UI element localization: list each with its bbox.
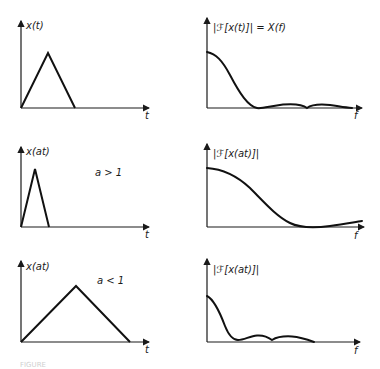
x-axis-label: t — [145, 229, 150, 240]
y-axis-label: x(at) — [25, 261, 50, 272]
y-axis-label: |ℱ[x(t)]| = X(f) — [213, 22, 286, 34]
y-axis-label: x(at) — [25, 146, 50, 157]
spectrum-curve — [207, 168, 362, 227]
condition-label: a < 1 — [97, 275, 124, 286]
x-axis-label: t — [145, 110, 150, 121]
x-axis-label: t — [145, 344, 150, 355]
y-axis-label: |ℱ[x(at)]| — [213, 148, 259, 160]
triangle-pulse — [21, 53, 75, 108]
wide-triangle-pulse — [21, 286, 130, 342]
panel-time-original: x(t) t — [21, 20, 150, 121]
figure-canvas: x(t) t |ℱ[x(t)]| = X(f) f x(at) a > 1 t … — [0, 0, 380, 369]
x-axis-label: f — [354, 230, 359, 241]
x-axis-label: f — [354, 110, 359, 121]
spectrum-curve — [207, 296, 314, 342]
figure-caption: FIGURE — [20, 361, 46, 369]
panel-time-expanded: x(at) a < 1 t — [21, 261, 150, 355]
condition-label: a > 1 — [95, 167, 122, 178]
panel-freq-original: |ℱ[x(t)]| = X(f) f — [207, 18, 362, 121]
x-axis-label: f — [354, 345, 359, 356]
spectrum-curve — [207, 52, 352, 108]
panel-freq-compressed: |ℱ[x(at)]| f — [207, 144, 364, 241]
y-axis-label: |ℱ[x(at)]| — [213, 264, 259, 276]
panel-time-compressed: x(at) a > 1 t — [21, 146, 150, 240]
panel-freq-expanded: |ℱ[x(at)]| f — [207, 259, 360, 356]
y-axis-label: x(t) — [25, 20, 44, 31]
narrow-triangle-pulse — [21, 169, 49, 227]
